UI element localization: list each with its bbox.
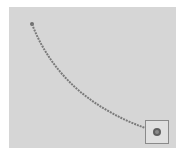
- drag-path-diagram: [0, 0, 182, 156]
- drag-path-line: [32, 24, 157, 132]
- end-point-inner-icon: [155, 130, 159, 134]
